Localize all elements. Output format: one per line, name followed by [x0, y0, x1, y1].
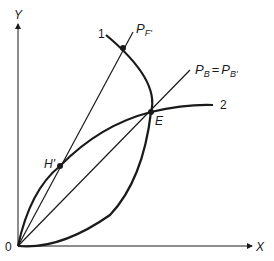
ray-pf: [18, 32, 133, 246]
x-axis-label: X: [255, 240, 265, 254]
origin-label: 0: [5, 240, 12, 254]
point-pf: [120, 45, 126, 51]
curve-2-label: 2: [220, 98, 227, 112]
point-H: [57, 163, 63, 169]
curve-2: [18, 105, 213, 246]
curve-1: [18, 35, 152, 246]
diagram-canvas: Y X 0 1 2 PF' PB=PB' E H': [0, 0, 274, 261]
point-H-label: H': [44, 157, 56, 171]
point-E-label: E: [155, 114, 164, 128]
point-E: [148, 109, 154, 115]
ray-pb-label: PB=PB': [195, 62, 238, 79]
curve-1-label: 1: [98, 27, 105, 41]
y-axis-label: Y: [14, 8, 23, 22]
ray-pf-label: PF': [136, 21, 152, 38]
diagram-svg: Y X 0 1 2 PF' PB=PB' E H': [0, 0, 274, 261]
